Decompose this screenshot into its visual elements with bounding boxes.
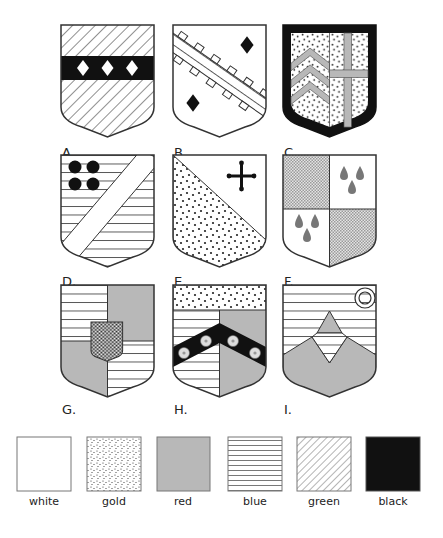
legend-label-blue: blue	[243, 495, 267, 508]
legend-label-green: green	[308, 495, 340, 508]
shield-e	[173, 155, 266, 267]
shield-label-g: G.	[62, 402, 76, 417]
legend-label-red: red	[174, 495, 192, 508]
heraldry-diagram: A.	[0, 0, 443, 538]
shield-a	[61, 25, 154, 137]
legend-item-green: green	[297, 437, 351, 508]
legend-item-black: black	[366, 437, 420, 508]
legend-label-white: white	[29, 495, 59, 508]
shield-h	[173, 285, 266, 397]
legend-label-black: black	[378, 495, 408, 508]
shield-i	[283, 285, 376, 397]
legend-label-gold: gold	[102, 495, 126, 508]
shield-f	[283, 155, 376, 269]
shield-c	[283, 25, 376, 137]
shield-b	[157, 25, 288, 137]
shield-label-h: H.	[174, 402, 188, 417]
legend-item-white: white	[17, 437, 71, 508]
legend-item-gold: gold	[87, 437, 141, 508]
shield-g	[61, 285, 154, 401]
shield-label-i: I.	[284, 402, 292, 417]
legend-item-blue: blue	[228, 437, 282, 508]
legend: white gold red blue green black	[17, 437, 420, 508]
legend-item-red: red	[157, 437, 210, 508]
shield-d	[56, 150, 161, 267]
